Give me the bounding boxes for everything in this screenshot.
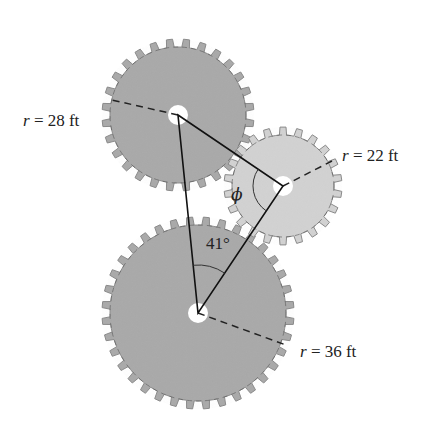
radius-value: = 36 ft bbox=[307, 342, 357, 361]
angle-phi-label: ϕ bbox=[231, 186, 243, 203]
radius-value: = 22 ft bbox=[349, 146, 399, 165]
radius-value: = 28 ft bbox=[30, 111, 80, 130]
radius-var: r bbox=[23, 111, 30, 130]
radius-label-top-left: r = 28 ft bbox=[23, 112, 79, 129]
radius-label-bottom: r = 36 ft bbox=[300, 343, 356, 360]
radius-var: r bbox=[342, 146, 349, 165]
gear-diagram bbox=[0, 0, 427, 424]
radius-label-right: r = 22 ft bbox=[342, 147, 398, 164]
radius-var: r bbox=[300, 342, 307, 361]
angle-41-label: 41° bbox=[206, 235, 230, 252]
